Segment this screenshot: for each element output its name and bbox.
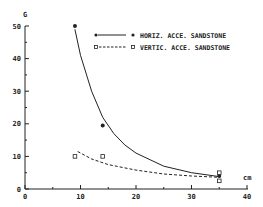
chart-svg: 01020304050 010203040 G cm HORIZ. ACCE. … xyxy=(0,0,263,207)
x-tick-label: 30 xyxy=(187,193,195,201)
y-tick-label: 10 xyxy=(13,153,21,161)
y-tick-label: 0 xyxy=(17,186,21,194)
legend-label-vertic: VERTIC. ACCE. SANDSTONE xyxy=(140,44,230,52)
x-ticks: 010203040 xyxy=(23,185,251,201)
x-tick-label: 20 xyxy=(132,193,140,201)
horiz-data-point xyxy=(73,24,77,28)
legend-marker-vertic xyxy=(132,46,135,49)
y-axis-label: G xyxy=(23,11,27,19)
horiz-data-point xyxy=(101,123,105,127)
chart: 01020304050 010203040 G cm HORIZ. ACCE. … xyxy=(0,0,263,207)
x-tick-label: 0 xyxy=(23,193,27,201)
legend: HORIZ. ACCE. SANDSTONE VERTIC. ACCE. SAN… xyxy=(94,32,230,52)
y-tick-label: 50 xyxy=(13,23,21,31)
y-ticks: 01020304050 xyxy=(13,23,29,194)
y-tick-label: 40 xyxy=(13,55,21,63)
vertic-data-point xyxy=(73,155,77,159)
legend-marker-horiz xyxy=(94,33,97,36)
vertic-data-point xyxy=(217,171,221,175)
vertic-data-point xyxy=(217,179,221,183)
vertic-data-point xyxy=(101,155,105,159)
x-axis-label: cm xyxy=(243,174,251,182)
y-tick-label: 30 xyxy=(13,88,21,96)
legend-marker-horiz xyxy=(131,33,134,36)
y-tick-label: 20 xyxy=(13,120,21,128)
legend-marker-vertic xyxy=(95,46,98,49)
x-tick-label: 40 xyxy=(243,193,251,201)
legend-label-horiz: HORIZ. ACCE. SANDSTONE xyxy=(140,32,226,40)
x-tick-label: 10 xyxy=(76,193,84,201)
